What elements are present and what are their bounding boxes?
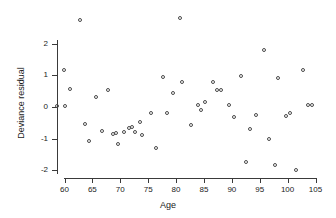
data-point (116, 142, 120, 146)
data-point (106, 88, 110, 92)
data-point (140, 133, 144, 137)
data-point (171, 91, 175, 95)
data-point (178, 16, 182, 20)
y-tick-mark (52, 75, 57, 76)
x-tick-label: 80 (164, 186, 188, 194)
data-point (211, 80, 215, 84)
data-point (87, 139, 91, 143)
data-point (62, 68, 66, 72)
x-tick-label: 100 (276, 186, 300, 194)
data-point (276, 76, 280, 80)
data-point (154, 146, 158, 150)
data-point (267, 137, 271, 141)
y-tick-label: 1 (26, 71, 48, 79)
x-tick-mark (288, 178, 289, 183)
data-point (63, 104, 67, 108)
x-tick-label: 95 (248, 186, 272, 194)
data-point (288, 111, 292, 115)
data-point (111, 132, 115, 136)
data-point (219, 88, 223, 92)
data-point (244, 160, 248, 164)
x-tick-mark (260, 178, 261, 183)
data-point (232, 115, 236, 119)
data-point (114, 131, 118, 135)
y-tick-label: -1 (26, 135, 48, 143)
x-tick-label: 85 (192, 186, 216, 194)
x-tick-label: 90 (220, 186, 244, 194)
data-point (83, 122, 87, 126)
data-point (254, 113, 258, 117)
y-axis-title: Deviance residual (16, 38, 26, 168)
x-tick-mark (316, 178, 317, 183)
data-point (55, 104, 59, 108)
data-point (284, 114, 288, 118)
data-point (149, 111, 153, 115)
data-point (248, 127, 252, 131)
scatter-plot-figure: 210-1-2 6065707580859095100105 Deviance … (0, 0, 336, 218)
x-tick-mark (65, 178, 66, 183)
x-tick-mark (120, 178, 121, 183)
data-point (215, 88, 219, 92)
data-point (78, 18, 82, 22)
y-tick-label: 0 (26, 103, 48, 111)
x-axis-line (64, 178, 316, 179)
y-tick-mark (52, 44, 57, 45)
y-tick-label: -2 (26, 166, 48, 174)
x-tick-mark (232, 178, 233, 183)
x-tick-mark (204, 178, 205, 183)
data-point (301, 68, 305, 72)
x-tick-label: 70 (108, 186, 132, 194)
data-point (203, 100, 207, 104)
x-tick-label: 75 (136, 186, 160, 194)
data-point (138, 120, 142, 124)
x-tick-label: 65 (80, 186, 104, 194)
data-point (100, 129, 104, 133)
data-point (189, 123, 193, 127)
y-axis-line (57, 40, 58, 174)
data-point (196, 103, 200, 107)
data-point (294, 168, 298, 172)
data-point (273, 163, 277, 167)
data-point (130, 125, 134, 129)
y-tick-mark (52, 139, 57, 140)
x-tick-mark (92, 178, 93, 183)
y-tick-label: 2 (26, 40, 48, 48)
data-point (262, 48, 266, 52)
data-point (239, 74, 243, 78)
data-point (199, 108, 203, 112)
data-point (306, 103, 310, 107)
data-point (165, 111, 169, 115)
y-tick-mark (52, 170, 57, 171)
data-point (127, 126, 131, 130)
y-tick-mark (52, 107, 57, 108)
x-tick-label: 60 (53, 186, 77, 194)
plot-area: 210-1-2 6065707580859095100105 (0, 0, 336, 218)
data-point (180, 80, 184, 84)
data-point (227, 103, 231, 107)
x-tick-mark (176, 178, 177, 183)
x-tick-label: 105 (304, 186, 328, 194)
x-tick-mark (148, 178, 149, 183)
x-axis-title: Age (0, 200, 336, 210)
data-point (122, 130, 126, 134)
data-point (133, 130, 137, 134)
data-point (94, 95, 98, 99)
data-point (161, 75, 165, 79)
data-point (68, 87, 72, 91)
data-point (310, 103, 314, 107)
